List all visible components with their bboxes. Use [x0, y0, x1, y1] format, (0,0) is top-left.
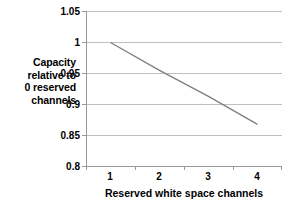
data-series-line [111, 43, 258, 125]
chart-container: Capacity relative to 0 reserved channels… [0, 0, 290, 212]
plot-area [0, 0, 290, 212]
gridlines [86, 12, 282, 136]
y-axis-ticks [82, 12, 86, 167]
